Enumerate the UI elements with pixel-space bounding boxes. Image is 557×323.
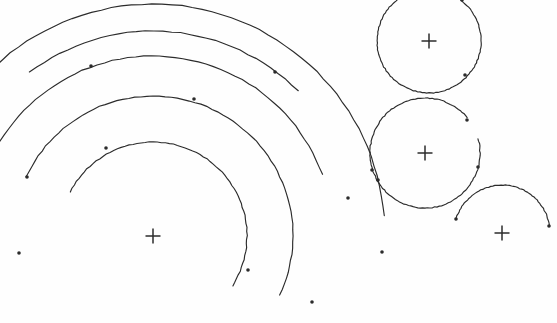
endpoint-dot-left-arc-2-0	[25, 175, 29, 179]
endpoint-dot-mid-right-circle-upper-left-1	[465, 118, 469, 122]
endpoint-dot-left-arc-4-outermost-1	[380, 250, 384, 254]
endpoint-dot-left-arc-5-short-1	[346, 196, 350, 200]
endpoint-dot-left-arc-1-innermost-1	[246, 268, 250, 272]
arc-circle-figure	[0, 0, 557, 323]
endpoint-dot-mid-right-circle-lower-1	[370, 168, 374, 172]
endpoint-dot-top-right-circle-1	[463, 73, 467, 77]
endpoint-dot-bottom-right-arc-0	[454, 217, 458, 221]
endpoint-dot-mid-right-circle-lower-0	[476, 165, 480, 169]
endpoint-dot-left-arc-4-outermost-0	[17, 251, 21, 255]
endpoint-dot-left-arc-3-1	[310, 300, 314, 304]
figure-background	[0, 0, 557, 323]
figure-canvas	[0, 0, 557, 323]
endpoint-dot-left-arc-2-1	[192, 97, 196, 101]
endpoint-dot-left-arc-5-short-0	[273, 70, 277, 74]
endpoint-dot-left-arc-1-innermost-0	[104, 146, 108, 150]
endpoint-dot-mid-right-circle-upper-left-0	[376, 178, 380, 182]
endpoint-dot-left-arc-3-0	[89, 64, 93, 68]
endpoint-dot-bottom-right-arc-1	[547, 224, 551, 228]
